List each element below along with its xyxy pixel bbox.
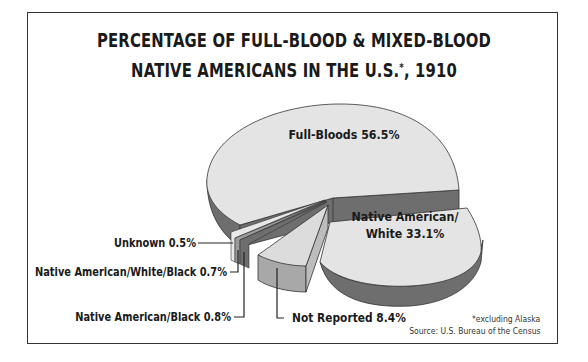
label-full-bloods: Full-Bloods 56.5% <box>289 127 400 142</box>
label-na-white-line1: Native American/ <box>352 209 459 224</box>
label-na-white-black: Native American/White/Black 0.7% <box>35 265 227 279</box>
label-unknown: Unknown 0.5% <box>114 236 196 250</box>
label-na-white-line2: White 33.1% <box>366 226 445 241</box>
footnote: *excluding Alaska <box>472 314 540 324</box>
label-not-reported: Not Reported 8.4% <box>292 310 406 325</box>
pie-chart: Full-Bloods 56.5% Native American/ White… <box>0 0 588 362</box>
label-na-black: Native American/Black 0.8% <box>75 310 231 324</box>
source-note: Source: U.S. Bureau of the Census <box>409 326 540 336</box>
